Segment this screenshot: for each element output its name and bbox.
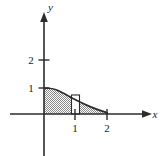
x-tick-label-2: 2 — [104, 122, 110, 134]
y-tick-label-1: 1 — [28, 82, 34, 94]
x-axis-arrow-icon — [142, 110, 152, 118]
figure-container: 1 2 1 2 y x — [0, 0, 162, 156]
x-tick-label-1: 1 — [72, 122, 78, 134]
x-axis-label: x — [152, 108, 158, 120]
graph-canvas: 1 2 1 2 y x — [0, 0, 162, 156]
y-axis-arrow-icon — [40, 12, 48, 22]
y-axis-label: y — [47, 1, 53, 13]
y-tick-label-2: 2 — [28, 54, 34, 66]
